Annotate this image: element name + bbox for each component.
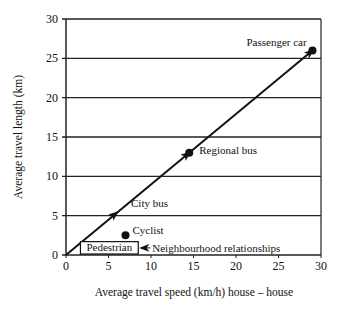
y-tick-label: 10 <box>46 169 58 183</box>
annotations: PedestrianNeighbourhood relationships <box>80 241 280 254</box>
x-tick-label: 20 <box>230 259 242 273</box>
data-points: Passenger carRegional busCity busCyclist <box>122 36 317 239</box>
x-tick-label: 25 <box>273 259 285 273</box>
data-point-label: Cyclist <box>133 224 164 236</box>
y-tick-label: 25 <box>46 51 58 65</box>
y-tick-labels: 051015202530 <box>46 12 58 262</box>
chart: 051015202530 051015202530 Passenger carR… <box>0 0 344 310</box>
y-tick-label: 15 <box>46 130 58 144</box>
x-axis-title: Average travel speed (km/h) house – hous… <box>95 286 293 299</box>
x-tick-label: 5 <box>106 259 112 273</box>
x-tick-label: 15 <box>188 259 200 273</box>
data-point-label: Passenger car <box>247 36 308 48</box>
y-axis-title: Average travel length (km) <box>12 75 25 199</box>
y-tick-label: 20 <box>46 91 58 105</box>
x-tick-labels: 051015202530 <box>63 259 327 273</box>
data-point-marker <box>122 231 130 239</box>
x-tick-label: 0 <box>63 259 69 273</box>
gridlines <box>62 19 321 255</box>
data-point-marker <box>309 46 317 54</box>
pedestrian-label: Pedestrian <box>86 241 132 253</box>
data-point-label: City bus <box>131 197 168 209</box>
y-tick-label: 5 <box>52 209 58 223</box>
data-point-marker <box>185 149 193 157</box>
y-tick-label: 0 <box>52 248 58 262</box>
x-tick-label: 10 <box>145 259 157 273</box>
neighbourhood-label: Neighbourhood relationships <box>152 242 280 254</box>
x-tick-label: 30 <box>315 259 327 273</box>
data-point-label: Regional bus <box>199 144 257 156</box>
y-tick-label: 30 <box>46 12 58 26</box>
